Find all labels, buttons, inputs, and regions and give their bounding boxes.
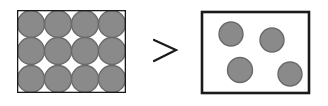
particle <box>99 38 126 65</box>
particle <box>45 38 72 65</box>
particle <box>228 58 253 83</box>
particle <box>99 11 126 38</box>
greater-than-icon <box>154 40 176 61</box>
density-comparison-diagram <box>0 0 328 106</box>
particle <box>99 66 126 93</box>
left-box-dense <box>17 10 126 93</box>
particle <box>72 38 99 65</box>
particle <box>72 66 99 93</box>
particle <box>18 11 45 38</box>
particle <box>260 28 284 52</box>
greater-than-symbol <box>154 40 176 61</box>
particle <box>18 66 45 93</box>
particle <box>72 11 99 38</box>
particle <box>45 11 72 38</box>
particle <box>278 62 302 86</box>
particle <box>45 66 72 93</box>
right-box-sparse <box>202 12 309 93</box>
particle <box>18 38 45 65</box>
particle <box>219 22 243 46</box>
